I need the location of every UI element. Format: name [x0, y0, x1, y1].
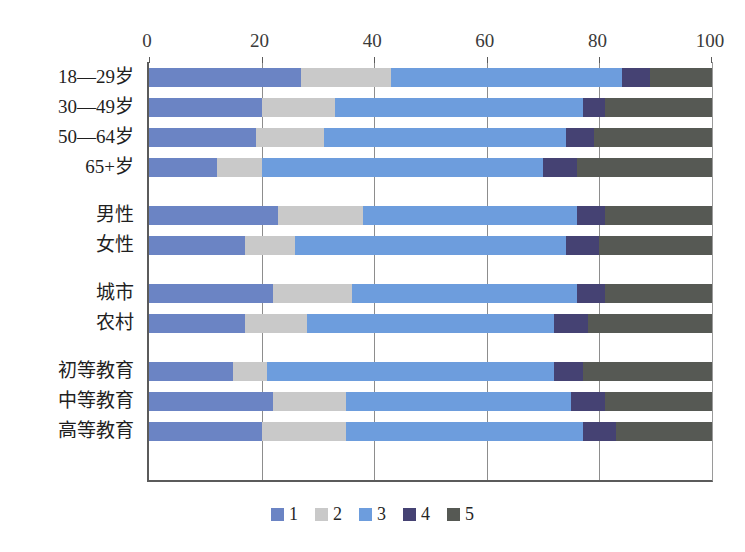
bar-segment-series-2: [262, 98, 335, 117]
bar-segment-series-4: [577, 206, 605, 225]
bar-segment-series-2: [245, 236, 296, 255]
bar-segment-series-1: [149, 128, 256, 147]
legend-item-2: 2: [315, 505, 342, 523]
gridline: [599, 62, 600, 480]
bar-segment-series-3: [352, 284, 577, 303]
legend-label: 3: [377, 505, 386, 523]
legend-swatch-1: [271, 508, 284, 521]
legend-swatch-4: [403, 508, 416, 521]
category-label: 初等教育: [58, 361, 134, 380]
bar-segment-series-2: [233, 362, 267, 381]
bar-segment-series-2: [278, 206, 362, 225]
legend-item-1: 1: [271, 505, 298, 523]
x-axis-tick-labels: 020406080100: [0, 30, 745, 54]
category-label: 高等教育: [58, 421, 134, 440]
bar-segment-series-5: [583, 362, 712, 381]
bar-segment-series-2: [256, 128, 324, 147]
bar-row: [149, 128, 712, 147]
x-tick-label-40: 40: [363, 30, 382, 52]
bar-segment-series-4: [566, 128, 594, 147]
category-label: 30—49岁: [58, 97, 134, 116]
plot-frame: [147, 62, 713, 482]
x-tickmark: [711, 57, 712, 63]
bar-row: [149, 422, 712, 441]
bar-segment-series-1: [149, 68, 301, 87]
gridline: [262, 62, 263, 480]
legend-label: 2: [333, 505, 342, 523]
bar-segment-series-4: [566, 236, 600, 255]
bar-segment-series-2: [273, 392, 346, 411]
bar-row: [149, 362, 712, 381]
gridline: [374, 62, 375, 480]
bar-segment-series-2: [245, 314, 307, 333]
bar-segment-series-2: [301, 68, 391, 87]
category-label: 男性: [96, 205, 134, 224]
bar-segment-series-5: [588, 314, 712, 333]
legend-label: 4: [421, 505, 430, 523]
category-axis-labels: 18—29岁30—49岁50—64岁65+岁男性女性城市农村初等教育中等教育高等…: [0, 62, 140, 480]
bar-segment-series-4: [571, 392, 605, 411]
x-tick-label-20: 20: [250, 30, 269, 52]
x-tickmark: [487, 57, 488, 63]
category-label: 女性: [96, 235, 134, 254]
bar-segment-series-1: [149, 392, 273, 411]
gridline: [487, 62, 488, 480]
bar-segment-series-1: [149, 98, 262, 117]
bar-segment-series-4: [622, 68, 650, 87]
bar-segment-series-4: [583, 98, 606, 117]
legend-swatch-5: [447, 508, 460, 521]
x-tick-label-100: 100: [696, 30, 725, 52]
bar-segment-series-3: [335, 98, 583, 117]
category-label: 农村: [96, 313, 134, 332]
bar-row: [149, 98, 712, 117]
legend-item-5: 5: [447, 505, 474, 523]
bar-row: [149, 206, 712, 225]
bar-row: [149, 284, 712, 303]
bar-segment-series-1: [149, 236, 245, 255]
bar-segment-series-5: [616, 422, 712, 441]
bar-segment-series-3: [267, 362, 554, 381]
x-tick-label-0: 0: [142, 30, 152, 52]
bar-segment-series-1: [149, 158, 217, 177]
bar-segment-series-3: [346, 392, 571, 411]
bar-segment-series-3: [324, 128, 566, 147]
category-label: 城市: [96, 283, 134, 302]
category-label: 18—29岁: [58, 67, 134, 86]
bar-segment-series-2: [217, 158, 262, 177]
bar-segment-series-5: [605, 98, 712, 117]
bar-segment-series-1: [149, 206, 278, 225]
x-tickmark: [374, 57, 375, 63]
x-tickmark: [262, 57, 263, 63]
bar-segment-series-4: [554, 362, 582, 381]
bar-row: [149, 392, 712, 411]
x-tickmark: [599, 57, 600, 63]
category-label: 中等教育: [58, 391, 134, 410]
x-tick-label-60: 60: [475, 30, 494, 52]
legend-label: 5: [465, 505, 474, 523]
bar-segment-series-1: [149, 284, 273, 303]
legend-item-4: 4: [403, 505, 430, 523]
bar-row: [149, 314, 712, 333]
bar-segment-series-5: [605, 392, 712, 411]
plot-area: [149, 62, 712, 480]
bar-segment-series-2: [273, 284, 352, 303]
bar-segment-series-4: [543, 158, 577, 177]
bar-segment-series-3: [307, 314, 555, 333]
bar-segment-series-1: [149, 314, 245, 333]
stacked-bar-chart: 020406080100 18—29岁30—49岁50—64岁65+岁男性女性城…: [0, 0, 745, 552]
chart-legend: 12345: [0, 500, 745, 528]
bar-row: [149, 236, 712, 255]
bar-row: [149, 158, 712, 177]
bar-segment-series-1: [149, 422, 262, 441]
x-tickmark: [149, 57, 150, 63]
legend-swatch-2: [315, 508, 328, 521]
bar-segment-series-4: [554, 314, 588, 333]
bar-segment-series-5: [650, 68, 712, 87]
bar-segment-series-3: [262, 158, 544, 177]
bar-segment-series-1: [149, 362, 233, 381]
bar-segment-series-2: [262, 422, 346, 441]
category-label: 50—64岁: [58, 127, 134, 146]
bar-segment-series-5: [605, 284, 712, 303]
bar-row: [149, 68, 712, 87]
legend-swatch-3: [359, 508, 372, 521]
